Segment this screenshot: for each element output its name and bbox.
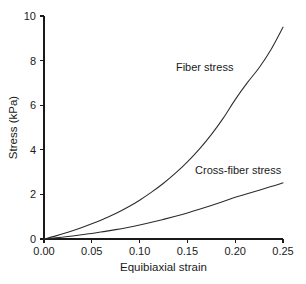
- y-axis-tick-labels: 0246810: [24, 10, 36, 245]
- y-tick-label: 4: [30, 144, 36, 156]
- y-axis-title: Stress (kPa): [7, 96, 19, 159]
- data-series-group: [44, 27, 283, 239]
- y-axis-ticks: [40, 16, 44, 239]
- series-curve: [44, 27, 283, 239]
- y-tick-label: 0: [30, 233, 36, 245]
- x-tick-label: 0.20: [224, 245, 245, 257]
- x-axis-ticks: [44, 239, 283, 243]
- series-annotations: Fiber stressCross-fiber stress: [176, 61, 282, 176]
- x-tick-label: 0.05: [81, 245, 102, 257]
- series-label: Cross-fiber stress: [195, 164, 282, 176]
- x-axis-title: Equibiaxial strain: [120, 261, 207, 273]
- stress-strain-line-chart: 0246810 0.000.050.100.150.200.25 Fiber s…: [0, 0, 306, 284]
- y-tick-label: 6: [30, 99, 36, 111]
- y-tick-label: 2: [30, 188, 36, 200]
- x-tick-label: 0.15: [177, 245, 198, 257]
- series-curve: [44, 183, 283, 239]
- x-axis-tick-labels: 0.000.050.100.150.200.25: [33, 245, 293, 257]
- y-tick-label: 10: [24, 10, 36, 22]
- x-tick-label: 0.00: [33, 245, 54, 257]
- x-tick-label: 0.10: [129, 245, 150, 257]
- y-tick-label: 8: [30, 55, 36, 67]
- series-label: Fiber stress: [176, 61, 234, 73]
- chart-figure: 0246810 0.000.050.100.150.200.25 Fiber s…: [0, 0, 306, 284]
- x-tick-label: 0.25: [272, 245, 293, 257]
